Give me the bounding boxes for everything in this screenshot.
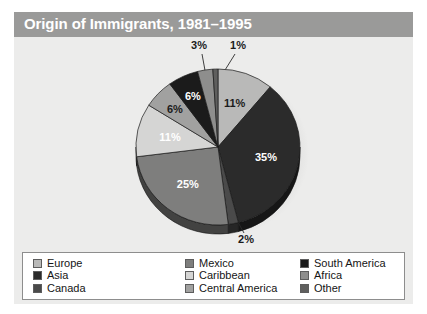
legend-swatch-icon (185, 259, 194, 268)
pie-slice-value: 35% (255, 151, 277, 163)
legend-label: Other (314, 283, 342, 294)
pie-slice-value: 6% (167, 103, 183, 115)
pie-slice-value: 25% (177, 178, 199, 190)
chart-title: Origin of Immigrants, 1981–1995 (24, 15, 252, 32)
legend-label: Canada (47, 283, 86, 294)
legend-swatch-icon (33, 271, 42, 280)
legend-swatch-icon (300, 284, 309, 293)
legend-swatch-icon (33, 259, 42, 268)
pie-slice-value: 2% (238, 233, 254, 245)
pie-chart-svg: 11%35%2%25%11%6%6%3%1% (14, 37, 413, 246)
legend-item[interactable]: Caribbean (185, 270, 300, 283)
legend-grid: EuropeMexicoSouth AmericaAsiaCaribbeanAf… (23, 253, 404, 299)
legend-swatch-icon (300, 259, 309, 268)
chart-title-band: Origin of Immigrants, 1981–1995 (14, 12, 413, 37)
pie-slice-value: 3% (191, 39, 207, 51)
pie-slice-value: 11% (224, 97, 246, 109)
legend-item[interactable]: Mexico (185, 257, 300, 270)
pie-plot-area: 11%35%2%25%11%6%6%3%1% (14, 37, 413, 246)
legend-swatch-icon (33, 284, 42, 293)
legend-swatch-icon (300, 271, 309, 280)
legend-item[interactable]: Africa (300, 270, 404, 283)
legend-label: Africa (314, 270, 342, 281)
chart-figure: Origin of Immigrants, 1981–1995 11%35%2%… (0, 0, 427, 314)
chart-legend: EuropeMexicoSouth AmericaAsiaCaribbeanAf… (22, 252, 405, 300)
legend-label: Central America (199, 283, 277, 294)
pie-slice-value: 6% (185, 90, 201, 102)
legend-item[interactable]: Other (300, 282, 404, 295)
legend-item[interactable]: Canada (33, 282, 185, 295)
legend-item[interactable]: Europe (33, 257, 185, 270)
legend-label: Caribbean (199, 270, 250, 281)
legend-swatch-icon (185, 284, 194, 293)
pie-slices (136, 69, 300, 225)
pie-slice-value: 11% (159, 131, 181, 143)
legend-item[interactable]: South America (300, 257, 404, 270)
legend-item[interactable]: Central America (185, 282, 300, 295)
legend-label: Mexico (199, 258, 234, 269)
legend-item[interactable]: Asia (33, 270, 185, 283)
legend-label: South America (314, 258, 386, 269)
legend-label: Asia (47, 270, 68, 281)
legend-swatch-icon (185, 271, 194, 280)
legend-label: Europe (47, 258, 82, 269)
pie-slice-value: 1% (230, 39, 246, 51)
